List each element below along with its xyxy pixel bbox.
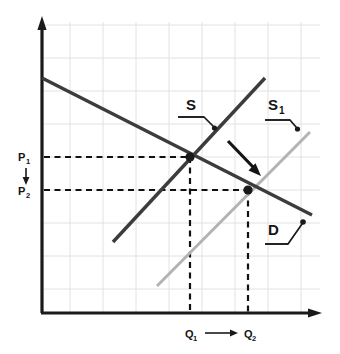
demand-label: D (268, 221, 279, 238)
supply-shifted-label-subscript: 1 (279, 105, 285, 116)
price-label-1: P (18, 151, 25, 163)
price-label-1-subscript: 1 (26, 157, 30, 166)
quantity-label-1-subscript: 1 (193, 334, 197, 343)
supply-label: S (186, 96, 196, 113)
chart-background (0, 0, 340, 354)
supply-shifted-label: S (268, 96, 278, 113)
supply-demand-diagram: S S 1 D P 1 P 2 (0, 0, 340, 354)
chart-canvas: S S 1 D P 1 P 2 (0, 0, 340, 354)
supply-leader-dot (212, 125, 217, 130)
equilibrium-point-1 (185, 152, 194, 161)
supply-shifted-leader-dot (295, 126, 300, 131)
price-label-2-subscript: 2 (26, 191, 30, 200)
demand-leader-dot (300, 219, 306, 225)
equilibrium-point-2 (243, 185, 252, 194)
price-label-2: P (18, 185, 25, 197)
quantity-label-2-subscript: 2 (252, 334, 256, 343)
